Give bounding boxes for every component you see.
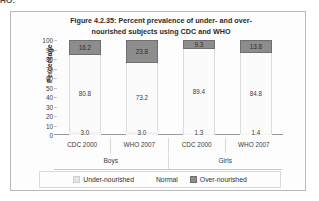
- value-label-under: 3.0: [81, 129, 90, 136]
- y-tick-0: 0: [29, 132, 53, 139]
- bar-girls-cdc2000[interactable]: 9.3 89.4 1.3: [183, 40, 215, 135]
- legend-label-normal: Normal: [156, 176, 178, 183]
- y-tick-100: 100: [29, 37, 53, 44]
- value-label-over: 23.8: [136, 48, 148, 55]
- segment-normal[interactable]: 89.4: [183, 49, 215, 134]
- segment-normal[interactable]: 73.2: [126, 63, 158, 133]
- category-axis: CDC 2000 WHO 2007 CDC 2000 WHO 2007: [54, 138, 282, 153]
- group-label-girls: Girls: [168, 154, 283, 169]
- plot-area: Percentage 100 90 80 70 60 50 40 30 20 1…: [57, 40, 279, 135]
- value-label-under: 3.0: [138, 129, 147, 136]
- segment-under-nourished[interactable]: 3.0: [69, 132, 101, 135]
- segment-under-nourished[interactable]: 1.3: [183, 134, 215, 135]
- legend-item-over-nourished[interactable]: Over-nourished: [190, 176, 247, 183]
- chart-legend: Under-nourished Normal Over-nourished: [39, 171, 281, 188]
- y-tick-80: 80: [29, 56, 53, 63]
- legend-label-over-nourished: Over-nourished: [200, 176, 247, 183]
- under-nourished-swatch-icon: [73, 176, 80, 183]
- legend-label-under-nourished: Under-nourished: [83, 176, 134, 183]
- category-label-boys-cdc2000: CDC 2000: [54, 138, 110, 153]
- value-label-normal: 89.4: [193, 88, 205, 95]
- figure-frame: Figure 4.2.35: Percent prevalence of und…: [10, 11, 306, 191]
- y-tick-50: 50: [29, 84, 53, 91]
- group-label-boys: Boys: [54, 154, 168, 169]
- group-axis: Boys Girls: [54, 154, 282, 170]
- y-tick-30: 30: [29, 103, 53, 110]
- category-label-girls-cdc2000: CDC 2000: [168, 138, 225, 153]
- y-tick-60: 60: [29, 75, 53, 82]
- y-tick-40: 40: [29, 94, 53, 101]
- chart-title: Figure 4.2.35: Percent prevalence of und…: [51, 16, 271, 38]
- y-tick-90: 90: [29, 46, 53, 53]
- value-label-normal: 84.8: [250, 90, 262, 97]
- category-label-boys-who2007: WHO 2007: [110, 138, 167, 153]
- y-tick-70: 70: [29, 65, 53, 72]
- clipped-header-text: HO.: [0, 0, 15, 5]
- legend-item-normal[interactable]: Normal: [146, 176, 178, 183]
- segment-over-nourished[interactable]: 23.8: [126, 40, 158, 63]
- segment-over-nourished[interactable]: 13.8: [240, 40, 272, 53]
- category-label-girls-who2007: WHO 2007: [225, 138, 282, 153]
- chart-title-line-2: nourished subjects using CDC and WHO: [51, 27, 271, 38]
- value-label-under: 1.3: [195, 129, 204, 136]
- value-label-over: 9.3: [195, 41, 204, 48]
- value-label-normal: 73.2: [136, 94, 148, 101]
- segment-normal[interactable]: 80.8: [69, 55, 101, 132]
- bar-boys-cdc2000[interactable]: 16.2 80.8 3.0: [69, 40, 101, 135]
- value-label-over: 16.2: [79, 44, 91, 51]
- chart-title-line-1: Figure 4.2.35: Percent prevalence of und…: [51, 16, 271, 27]
- value-label-over: 13.8: [250, 43, 262, 50]
- value-label-normal: 80.8: [79, 90, 91, 97]
- legend-item-under-nourished[interactable]: Under-nourished: [73, 176, 134, 183]
- normal-swatch-icon: [146, 176, 153, 183]
- y-tick-10: 10: [29, 122, 53, 129]
- value-label-under: 1.4: [252, 129, 261, 136]
- segment-over-nourished[interactable]: 16.2: [69, 40, 101, 55]
- y-tick-20: 20: [29, 113, 53, 120]
- over-nourished-swatch-icon: [190, 176, 197, 183]
- segment-normal[interactable]: 84.8: [240, 53, 272, 134]
- segment-under-nourished[interactable]: 3.0: [126, 132, 158, 135]
- bar-girls-who2007[interactable]: 13.8 84.8 1.4: [240, 40, 272, 135]
- segment-over-nourished[interactable]: 9.3: [183, 40, 215, 49]
- bar-boys-who2007[interactable]: 23.8 73.2 3.0: [126, 40, 158, 135]
- segment-under-nourished[interactable]: 1.4: [240, 134, 272, 135]
